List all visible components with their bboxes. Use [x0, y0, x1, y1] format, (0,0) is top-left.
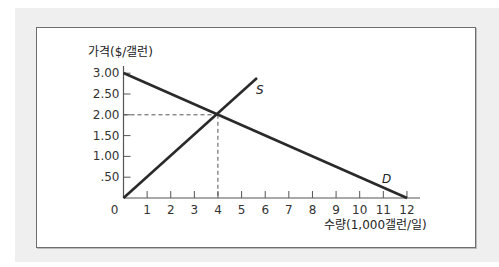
- x-axis-title: 수량(1,000갤런/일): [324, 218, 427, 232]
- x-tick-label: 7: [285, 203, 293, 217]
- supply-label: S: [256, 83, 264, 97]
- x-tick-label: 10: [352, 203, 367, 217]
- x-tick-label: 12: [399, 203, 414, 217]
- demand-curve: [124, 73, 408, 198]
- x-tick-label: 11: [376, 203, 391, 217]
- y-tick-label: 1.50: [93, 129, 120, 143]
- y-tick-label: 2.00: [93, 108, 120, 122]
- y-tick-label: .50: [100, 170, 119, 184]
- y-tick-label: 2.50: [93, 87, 120, 101]
- x-tick-label: 2: [167, 203, 175, 217]
- x-tick-label: 5: [238, 203, 246, 217]
- x-tick-label: 3: [191, 203, 199, 217]
- x-tick-label: 4: [214, 203, 222, 217]
- supply-demand-chart: .501.001.502.002.503.00 0123456789101112…: [0, 0, 499, 267]
- x-tick-label: 0: [111, 203, 119, 217]
- x-tick-label: 6: [261, 203, 269, 217]
- x-axis-ticks: 0123456789101112: [111, 191, 415, 217]
- x-tick-label: 8: [309, 203, 317, 217]
- demand-label: D: [382, 172, 391, 186]
- x-tick-label: 9: [332, 203, 340, 217]
- y-axis-ticks: .501.001.502.002.503.00: [93, 66, 131, 184]
- y-tick-label: 1.00: [93, 149, 120, 163]
- y-axis-title: 가격($/갤런): [88, 45, 153, 59]
- x-tick-label: 1: [143, 203, 151, 217]
- y-tick-label: 3.00: [93, 66, 120, 80]
- supply-curve: [124, 78, 258, 198]
